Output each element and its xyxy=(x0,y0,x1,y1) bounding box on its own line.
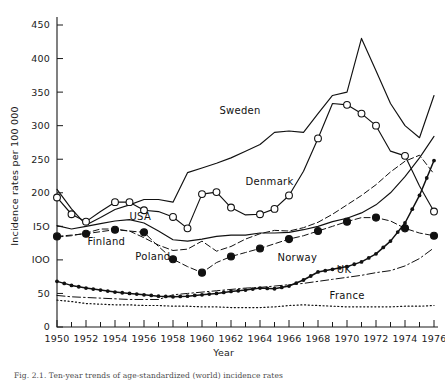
data-point-denmark xyxy=(431,208,438,215)
incidence-rates-line-chart: 050IOOI5O2002503003504004501950195219541… xyxy=(0,0,445,381)
y-tick-label: 350 xyxy=(31,87,50,98)
data-point-denmark xyxy=(199,191,206,198)
data-point-poland xyxy=(54,233,61,240)
data-point-norway xyxy=(396,230,400,234)
data-point-norway xyxy=(316,270,320,274)
data-point-norway xyxy=(142,293,146,297)
data-point-norway xyxy=(135,292,139,296)
y-tick-label: 400 xyxy=(31,53,50,64)
data-point-denmark xyxy=(271,205,278,212)
data-point-norway xyxy=(106,289,110,293)
data-point-norway xyxy=(389,239,393,243)
x-tick-label: 1956 xyxy=(132,333,157,344)
data-point-norway xyxy=(99,288,103,292)
data-point-denmark xyxy=(68,211,75,218)
data-point-norway xyxy=(120,291,124,295)
data-point-norway xyxy=(77,285,81,289)
data-point-norway xyxy=(113,290,117,294)
data-point-denmark xyxy=(213,189,220,196)
y-tick-label: 250 xyxy=(31,154,50,165)
data-point-denmark xyxy=(373,122,380,129)
data-point-norway xyxy=(352,262,356,266)
series-label-uk: UK xyxy=(337,264,352,275)
y-tick-label: 300 xyxy=(31,120,50,131)
data-point-norway xyxy=(236,289,240,293)
x-tick-label: 1968 xyxy=(306,333,331,344)
series-label-norway: Norway xyxy=(277,252,317,263)
series-label-denmark: Denmark xyxy=(246,176,294,187)
x-axis-title: Year xyxy=(212,347,234,358)
data-point-norway xyxy=(157,294,161,298)
data-point-norway xyxy=(309,274,313,278)
series-label-france: France xyxy=(330,290,365,301)
data-point-norway xyxy=(55,279,59,283)
x-tick-label: 1958 xyxy=(161,333,186,344)
data-point-norway xyxy=(186,294,190,298)
data-point-norway xyxy=(331,267,335,271)
data-point-norway xyxy=(258,286,262,290)
data-point-norway xyxy=(418,194,422,198)
data-point-poland xyxy=(199,269,206,276)
figure-panel: 050IOOI5O2002503003504004501950195219541… xyxy=(0,0,445,381)
data-point-norway xyxy=(251,287,255,291)
data-point-norway xyxy=(425,176,429,180)
x-tick-label: 1972 xyxy=(364,333,389,344)
data-point-norway xyxy=(432,159,436,163)
data-point-norway xyxy=(70,283,74,287)
data-point-norway xyxy=(381,246,385,250)
series-label-sweden: Sweden xyxy=(219,105,260,116)
y-tick-label: 200 xyxy=(31,187,50,198)
data-point-norway xyxy=(128,292,132,296)
data-point-norway xyxy=(410,207,414,211)
y-tick-label: I5O xyxy=(33,221,50,232)
data-point-poland xyxy=(431,232,438,239)
data-point-denmark xyxy=(184,225,191,232)
series-label-finland: Finland xyxy=(87,236,125,247)
data-point-norway xyxy=(403,221,407,225)
data-point-norway xyxy=(193,294,197,298)
data-point-norway xyxy=(294,281,298,285)
x-tick-label: 1954 xyxy=(103,333,128,344)
data-point-norway xyxy=(280,286,284,290)
data-point-denmark xyxy=(315,135,322,142)
data-point-poland xyxy=(315,228,322,235)
data-point-denmark xyxy=(54,194,61,201)
data-point-norway xyxy=(367,256,371,260)
y-tick-label: IOO xyxy=(32,254,50,265)
series-label-poland: Poland xyxy=(135,251,170,262)
x-tick-label: 1950 xyxy=(45,333,70,344)
data-point-norway xyxy=(91,287,95,291)
data-point-denmark xyxy=(344,101,351,108)
data-point-norway xyxy=(215,292,219,296)
data-point-norway xyxy=(178,295,182,299)
data-point-poland xyxy=(112,226,119,233)
data-point-norway xyxy=(360,260,364,264)
data-point-norway xyxy=(302,278,306,282)
data-point-denmark xyxy=(257,211,264,218)
data-point-poland xyxy=(170,256,177,263)
data-point-poland xyxy=(228,253,235,260)
data-point-denmark xyxy=(402,152,409,159)
data-point-denmark xyxy=(170,214,177,221)
y-tick-label: 0 xyxy=(44,321,50,332)
data-point-norway xyxy=(171,295,175,299)
x-tick-label: 1976 xyxy=(422,333,445,344)
data-point-poland xyxy=(257,245,264,252)
data-point-denmark xyxy=(228,204,235,211)
y-tick-label: 50 xyxy=(38,288,51,299)
data-point-norway xyxy=(287,284,291,288)
chart-background xyxy=(0,0,445,381)
y-axis-title: Incidence rates per 100 000 xyxy=(9,106,20,245)
x-tick-label: 1970 xyxy=(335,333,360,344)
data-point-poland xyxy=(286,236,293,243)
data-point-denmark xyxy=(83,218,90,225)
data-point-norway xyxy=(265,287,269,291)
x-tick-label: 1974 xyxy=(393,333,418,344)
data-point-denmark xyxy=(358,110,365,117)
data-point-denmark xyxy=(126,199,133,206)
data-point-poland xyxy=(402,225,409,232)
data-point-poland xyxy=(344,218,351,225)
x-tick-label: 1960 xyxy=(190,333,215,344)
data-point-poland xyxy=(141,229,148,236)
x-tick-label: 1964 xyxy=(248,333,273,344)
